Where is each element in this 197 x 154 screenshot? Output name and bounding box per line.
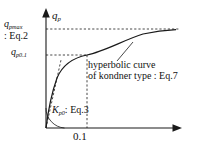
qp01-label: qp0.1 xyxy=(11,47,27,58)
kp0-label: Kp0: Eq.3 xyxy=(52,105,89,116)
curve-annotation: hyperbolic curve of kondner type : Eq.7 xyxy=(88,60,178,81)
kp0-label-main: K xyxy=(52,104,59,115)
qpmax-label-subscript: pmax xyxy=(9,23,22,30)
qpmax-label: qpmax xyxy=(4,19,22,30)
x-axis-arrow-icon xyxy=(173,124,183,132)
y-axis-title-main: q xyxy=(52,9,58,21)
kp0-equation-ref: : Eq.3 xyxy=(65,104,89,115)
x-axis-tick-label: 0.1 xyxy=(73,131,87,143)
y-axis-title-subscript: p xyxy=(58,15,61,22)
kp0-label-subscript: p0 xyxy=(59,109,65,116)
curve-annotation-line-1: hyperbolic curve xyxy=(88,60,178,71)
qpmax-equation-ref: : Eq.2 xyxy=(4,31,28,42)
y-axis-title: qp xyxy=(52,10,61,22)
qp01-label-subscript: p0.1 xyxy=(16,51,27,58)
y-axis-arrow-icon xyxy=(42,8,50,18)
curve-annotation-line-2: of kondner type : Eq.7 xyxy=(88,71,178,82)
figure-container: qp qpmax : Eq.2 qp0.1 Kp0: Eq.3 hyperbol… xyxy=(0,0,197,154)
